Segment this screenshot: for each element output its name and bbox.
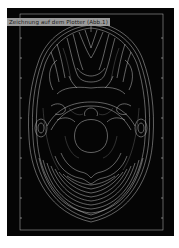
contour-drawing — [7, 8, 174, 236]
figure-label: Zeichnung auf dem Plotter (Abb.1) — [7, 18, 110, 26]
frame-ticks — [20, 38, 163, 218]
figure-caption — [10, 240, 100, 244]
plot-panel — [7, 8, 174, 236]
